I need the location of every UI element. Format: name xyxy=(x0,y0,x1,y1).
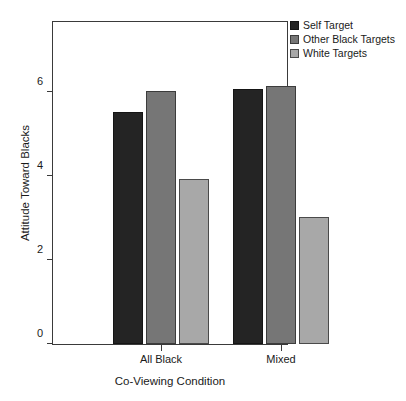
legend-swatch-icon xyxy=(290,21,299,30)
y-axis-tick-label: 4 xyxy=(37,159,43,170)
x-axis-tick-label: Mixed xyxy=(266,354,295,365)
x-axis-tick xyxy=(161,344,162,351)
legend-item-label: Other Black Targets xyxy=(303,34,395,45)
legend-item: Other Black Targets xyxy=(290,33,406,45)
legend-swatch-icon xyxy=(290,35,299,44)
plot-frame: 0246All BlackMixed xyxy=(52,21,288,345)
bar-chart-figure: Attitude Toward Blacks 0246All BlackMixe… xyxy=(0,0,406,401)
x-axis-tick-label: All Black xyxy=(140,354,182,365)
y-axis-tick: 0 xyxy=(47,343,53,344)
legend-swatch-icon xyxy=(290,49,299,58)
bar-all-black-self-target xyxy=(113,112,143,344)
x-axis-tick xyxy=(281,344,282,351)
y-axis-tick: 6 xyxy=(47,91,53,92)
y-axis-tick: 2 xyxy=(47,259,53,260)
legend-item: Self Target xyxy=(290,19,406,31)
y-axis-tick-label: 6 xyxy=(37,75,43,86)
bar-mixed-self-target xyxy=(233,89,263,344)
y-axis-tick-label: 0 xyxy=(37,328,43,339)
bar-all-black-other-black-targets xyxy=(146,91,176,344)
x-axis-title: Co-Viewing Condition xyxy=(52,376,288,388)
legend-item: White Targets xyxy=(290,47,406,59)
y-axis-tick: 4 xyxy=(47,175,53,176)
y-axis-title: Attitude Toward Blacks xyxy=(14,21,36,345)
bar-all-black-white-targets xyxy=(179,179,209,344)
y-axis-tick-label: 2 xyxy=(37,243,43,254)
legend-item-label: Self Target xyxy=(303,20,353,31)
plot-area: 0246All BlackMixed xyxy=(53,22,287,344)
legend-item-label: White Targets xyxy=(303,48,367,59)
bar-mixed-other-black-targets xyxy=(266,86,296,344)
legend: Self TargetOther Black TargetsWhite Targ… xyxy=(290,19,406,61)
bar-mixed-white-targets xyxy=(299,217,329,344)
